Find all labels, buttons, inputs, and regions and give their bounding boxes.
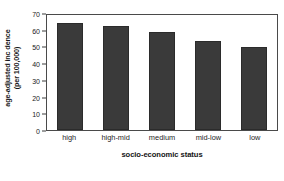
bar	[195, 41, 221, 130]
bars-layer	[47, 15, 277, 130]
x-axis-tick-label: high	[46, 133, 92, 145]
plot-area	[46, 14, 278, 131]
bar-slot	[185, 15, 231, 130]
y-axis-title-line-2: (per 100,000)	[12, 29, 21, 106]
bar-slot	[231, 15, 277, 130]
bar	[241, 47, 267, 130]
y-axis-tick-label: 50	[32, 44, 40, 51]
x-axis-tick-labels: highhigh-midmediummid-lowlow	[46, 133, 278, 145]
x-axis-tick-label: high-mid	[92, 133, 138, 145]
y-axis-tick-label: 30	[32, 77, 40, 84]
bar-chart: age-adjusted inc dence (per 100,000) 010…	[0, 0, 284, 181]
y-axis-tick-label: 0	[36, 128, 40, 135]
bar-slot	[139, 15, 185, 130]
x-axis-tick-label: medium	[139, 133, 185, 145]
y-axis-tick-labels: 010203040506070	[24, 14, 42, 131]
y-axis-tick-label: 70	[32, 11, 40, 18]
bar	[57, 23, 83, 130]
bar-slot	[47, 15, 93, 130]
y-axis-tick-label: 60	[32, 27, 40, 34]
y-axis-tick-label: 40	[32, 61, 40, 68]
x-axis-title: socio-economic status	[46, 150, 278, 159]
bar-slot	[93, 15, 139, 130]
y-axis-title: age-adjusted inc dence (per 100,000)	[0, 0, 24, 135]
y-axis-tick-label: 10	[32, 111, 40, 118]
y-axis-tick-label: 20	[32, 94, 40, 101]
bar	[103, 26, 129, 130]
bar	[149, 32, 175, 130]
x-axis-tick-label: low	[232, 133, 278, 145]
x-axis-tick-label: mid-low	[185, 133, 231, 145]
